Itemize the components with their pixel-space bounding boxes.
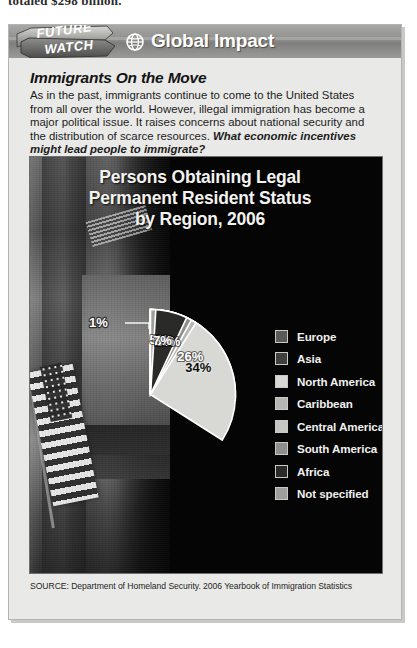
legend-label: Central America — [297, 420, 383, 433]
callout-label-1pct: 1% — [89, 315, 108, 330]
feature-header-band: FUTURE WATCH Global Impact — [9, 25, 401, 58]
pie-label-north-america: 34% — [185, 360, 211, 375]
legend-item-north-america: North America — [275, 370, 383, 393]
intro-heading: Immigrants On the Move — [30, 69, 375, 87]
legend-swatch — [275, 397, 288, 410]
chart-title-line-3: by Region, 2006 — [30, 209, 370, 230]
legend-item-caribbean: Caribbean — [275, 393, 383, 416]
legend-label: Not specified — [297, 487, 369, 500]
legend-swatch — [275, 442, 288, 455]
legend-swatch — [275, 375, 288, 388]
chart-title-line-2: Permanent Resident Status — [30, 188, 370, 209]
pie-slice-group — [151, 310, 236, 441]
legend-swatch — [275, 420, 288, 433]
legend-label: Caribbean — [297, 397, 353, 410]
pie-label-africa: 7% — [153, 333, 172, 348]
legend-swatch — [275, 330, 288, 343]
legend-label: Africa — [297, 465, 329, 478]
legend-label: Asia — [297, 352, 321, 365]
legend-label: Europe — [297, 330, 336, 343]
chart-title-line-1: Persons Obtaining Legal — [30, 167, 370, 188]
legend-swatch — [275, 465, 288, 478]
pie-callout-not-specified: 1% — [89, 315, 149, 330]
legend-label: South America — [297, 442, 377, 455]
legend-label: North America — [297, 375, 375, 388]
legend-swatch — [275, 487, 288, 500]
globe-icon — [126, 33, 144, 51]
legend-item-not-specified: Not specified — [275, 483, 383, 506]
legend-item-central-america: Central America — [275, 415, 383, 438]
pie-chart: 10%26%34%9%5%8%7% 1% — [63, 307, 238, 482]
page-running-text: totaled $298 billion. — [8, 0, 228, 7]
future-watch-ribbon-logo: FUTURE WATCH — [15, 25, 119, 58]
legend-item-africa: Africa — [275, 460, 383, 483]
feature-box: FUTURE WATCH Global Impact Immigrants On… — [8, 24, 402, 620]
chart-legend: EuropeAsiaNorth AmericaCaribbeanCentral … — [275, 325, 383, 505]
chart-panel: Persons Obtaining Legal Permanent Reside… — [29, 156, 383, 574]
legend-item-south-america: South America — [275, 438, 383, 461]
legend-item-asia: Asia — [275, 348, 383, 371]
legend-item-europe: Europe — [275, 325, 383, 348]
chart-source-note: SOURCE: Department of Homeland Security.… — [30, 581, 390, 591]
chart-title: Persons Obtaining Legal Permanent Reside… — [30, 167, 370, 230]
feature-title: Global Impact — [151, 30, 274, 52]
pie-chart-svg: 10%26%34%9%5%8%7% 1% — [63, 307, 238, 482]
legend-swatch — [275, 352, 288, 365]
intro-paragraph: As in the past, immigrants continue to c… — [30, 89, 375, 157]
intro-block: Immigrants On the Move As in the past, i… — [30, 69, 375, 157]
